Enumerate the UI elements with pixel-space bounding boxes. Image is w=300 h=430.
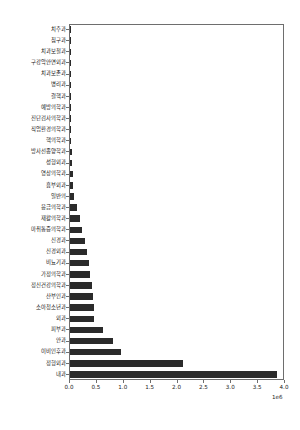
bar-row: 소아청소년과 — [0, 302, 300, 313]
y-axis-tick — [66, 363, 70, 364]
bar-row: 안과 — [0, 336, 300, 347]
x-axis-tick-label: 1.0 — [118, 384, 127, 390]
bar-row: 재활의학과 — [0, 213, 300, 224]
bar-row: 성형외과 — [0, 158, 300, 169]
y-axis-tick — [66, 140, 70, 141]
bar-track — [70, 158, 72, 169]
category-label: 방사선종양학과 — [31, 149, 66, 154]
x-axis-tick-label: 3.5 — [253, 384, 262, 390]
bar — [70, 60, 71, 66]
category-label: 이비인후과 — [41, 349, 66, 354]
bar-track — [70, 57, 71, 68]
y-axis-tick — [66, 318, 70, 319]
bar-track — [70, 336, 113, 347]
category-label: 병리과 — [51, 82, 66, 87]
bar — [70, 327, 103, 333]
category-label: 정신건강의학과 — [31, 283, 66, 288]
category-label: 안과 — [56, 338, 66, 343]
bar-row: 영상의학과 — [0, 169, 300, 180]
bar-row: 침구과 — [0, 35, 300, 46]
y-axis-tick — [66, 74, 70, 75]
y-axis-tick — [66, 352, 70, 353]
category-label: 치주과 — [51, 27, 66, 32]
bar-row: 치과보철과 — [0, 46, 300, 57]
bar-track — [70, 258, 89, 269]
y-axis-tick — [66, 85, 70, 86]
bar-row: 진단검사의학과 — [0, 113, 300, 124]
bar — [70, 338, 113, 344]
y-axis-tick — [66, 163, 70, 164]
bar-row: 치주과 — [0, 24, 300, 35]
bar — [70, 93, 71, 99]
bar-track — [70, 213, 80, 224]
bar — [70, 49, 71, 55]
bar — [70, 160, 72, 166]
bar — [70, 149, 72, 155]
y-axis-tick — [66, 274, 70, 275]
bar-track — [70, 69, 71, 80]
y-axis-tick — [66, 107, 70, 108]
bar — [70, 193, 74, 199]
x-axis-tick-label: 2.5 — [199, 384, 208, 390]
bar-track — [70, 247, 87, 258]
x-axis-tick — [96, 380, 97, 383]
bar-track — [70, 235, 85, 246]
x-axis-tick — [177, 380, 178, 383]
category-label: 정형외과 — [46, 361, 66, 366]
category-label: 핵의학과 — [46, 138, 66, 143]
category-label: 진단검사의학과 — [31, 116, 66, 121]
bar — [70, 204, 77, 210]
category-label: 결핵과 — [51, 94, 66, 99]
x-axis-tick-label: 3.0 — [226, 384, 235, 390]
bar — [70, 37, 71, 43]
bar — [70, 238, 85, 244]
category-label: 내과 — [56, 372, 66, 377]
bar-track — [70, 102, 71, 113]
x-axis-tick — [257, 380, 258, 383]
category-label: 비뇨기과 — [46, 260, 66, 265]
bar-track — [70, 35, 71, 46]
bar-row: 구강악안면외과 — [0, 57, 300, 68]
category-label: 재활의학과 — [41, 216, 66, 221]
bar — [70, 371, 277, 377]
category-label: 성형외과 — [46, 160, 66, 165]
bar-track — [70, 124, 71, 135]
y-axis-tick — [66, 252, 70, 253]
bar-track — [70, 24, 71, 35]
x-axis-tick — [230, 380, 231, 383]
x-axis: 0.00.51.01.52.02.53.03.54.0 — [69, 380, 284, 410]
category-label: 일반의 — [51, 194, 66, 199]
x-axis-tick — [203, 380, 204, 383]
bar-row: 비뇨기과 — [0, 258, 300, 269]
bar-row: 외과 — [0, 313, 300, 324]
y-axis-tick — [66, 307, 70, 308]
category-label: 외과 — [56, 316, 66, 321]
bar-rows: 치주과침구과치과보철과구강악안면외과치과보존과병리과결핵과예방의학과진단검사의학… — [0, 24, 300, 380]
bar — [70, 271, 90, 277]
bar-track — [70, 113, 71, 124]
bar-row: 신경과 — [0, 235, 300, 246]
x-axis-tick-label: 0.5 — [91, 384, 100, 390]
bar — [70, 282, 92, 288]
y-axis-tick — [66, 129, 70, 130]
y-axis-tick — [66, 62, 70, 63]
category-label: 신경외과 — [46, 249, 66, 254]
x-axis-tick-label: 0.0 — [65, 384, 74, 390]
bar — [70, 126, 71, 132]
bar — [70, 260, 89, 266]
bar-track — [70, 80, 71, 91]
bar — [70, 26, 71, 32]
y-axis-tick — [66, 263, 70, 264]
y-axis-tick — [66, 240, 70, 241]
y-axis-tick — [66, 329, 70, 330]
x-axis-exponent-label: 1e6 — [272, 394, 283, 400]
y-axis-tick — [66, 296, 70, 297]
bar — [70, 293, 93, 299]
bar-row: 가정의학과 — [0, 269, 300, 280]
bar-row: 병리과 — [0, 80, 300, 91]
category-label: 산부인과 — [46, 294, 66, 299]
bar-row: 정형외과 — [0, 358, 300, 369]
bar — [70, 227, 82, 233]
bar-chart-figure: 치주과침구과치과보철과구강악안면외과치과보존과병리과결핵과예방의학과진단검사의학… — [0, 0, 300, 430]
bar-track — [70, 135, 71, 146]
